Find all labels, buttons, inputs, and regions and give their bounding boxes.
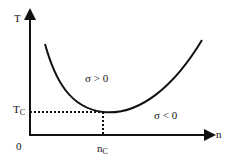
critical-curve: [45, 40, 202, 112]
origin-label: 0: [16, 141, 22, 152]
diagram-canvas: [0, 0, 233, 161]
region-below-label: σ < 0: [154, 110, 177, 121]
tc-label: TC: [13, 104, 25, 117]
phase-diagram: T n 0 TC nC σ > 0 σ < 0: [0, 0, 233, 161]
x-axis-label: n: [216, 129, 222, 140]
y-axis-label: T: [14, 13, 21, 24]
nc-label: nC: [97, 143, 108, 156]
region-above-label: σ > 0: [85, 73, 108, 84]
